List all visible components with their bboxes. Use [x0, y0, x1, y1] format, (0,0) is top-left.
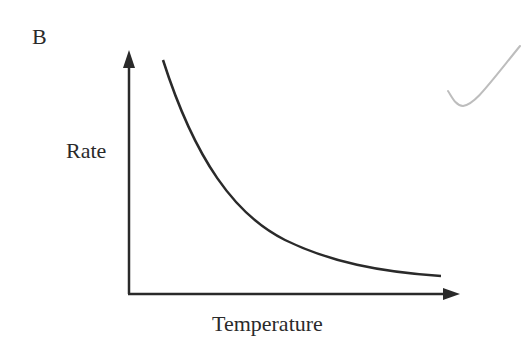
x-axis — [128, 288, 460, 300]
y-axis-arrow-icon — [123, 50, 135, 68]
rate-curve — [163, 60, 441, 276]
y-axis — [123, 50, 135, 294]
x-axis-arrow-icon — [443, 288, 460, 300]
rate-temperature-graph — [0, 0, 529, 355]
checkmark-icon — [448, 46, 520, 106]
